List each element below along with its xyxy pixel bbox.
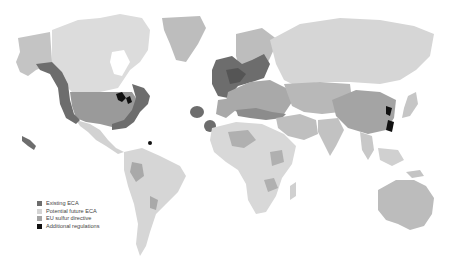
legend-item-additional-regulations: Additional regulations [37, 223, 100, 231]
legend-item-eu-sulfur-directive: EU sulfur directive [37, 215, 100, 223]
legend-label: EU sulfur directive [46, 215, 91, 223]
swatch-additional-regulations [37, 224, 42, 229]
swatch-existing-eca [37, 201, 42, 206]
legend-item-potential-future-eca: Potential future ECA [37, 208, 100, 216]
legend: Existing ECA Potential future ECA EU sul… [37, 200, 100, 230]
world-map [0, 0, 449, 272]
swatch-eu-sulfur-directive [37, 216, 42, 221]
swatch-potential-future-eca [37, 209, 42, 214]
legend-label: Existing ECA [46, 200, 79, 208]
legend-label: Additional regulations [46, 223, 100, 231]
legend-item-existing-eca: Existing ECA [37, 200, 100, 208]
legend-label: Potential future ECA [46, 208, 97, 216]
